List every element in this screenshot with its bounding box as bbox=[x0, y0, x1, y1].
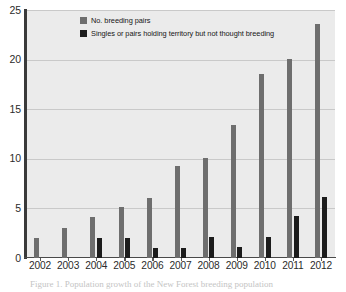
figure-container: 0510152025 20022003200420052006200720082… bbox=[0, 0, 346, 292]
bar-breeding-2011 bbox=[287, 59, 292, 258]
y-tick-label-15: 15 bbox=[0, 104, 21, 114]
x-tick-label-2004: 2004 bbox=[81, 260, 111, 272]
bar-breeding-2002 bbox=[34, 238, 39, 258]
y-axis-tick-labels: 0510152025 bbox=[0, 0, 21, 292]
bar-singles-2004 bbox=[97, 238, 102, 258]
legend-item-singles: Singles or pairs holding territory but n… bbox=[80, 28, 274, 39]
bar-breeding-2004 bbox=[90, 217, 95, 258]
y-tick-label-10: 10 bbox=[0, 153, 21, 163]
y-tick-label-5: 5 bbox=[0, 203, 21, 213]
x-tick-label-2002: 2002 bbox=[25, 260, 55, 272]
bar-breeding-2009 bbox=[231, 125, 236, 258]
bar-singles-2011 bbox=[294, 216, 299, 258]
bar-breeding-2005 bbox=[119, 207, 124, 258]
legend-item-breeding: No. breeding pairs bbox=[80, 15, 274, 26]
bar-breeding-2007 bbox=[175, 166, 180, 258]
bar-singles-2006 bbox=[153, 248, 158, 258]
bar-breeding-2006 bbox=[147, 198, 152, 259]
x-tick-label-2009: 2009 bbox=[222, 260, 252, 272]
x-tick-label-2006: 2006 bbox=[137, 260, 167, 272]
figure-caption: Figure 1. Population growth of the New F… bbox=[30, 279, 330, 290]
legend-label-singles: Singles or pairs holding territory but n… bbox=[91, 30, 274, 38]
bar-singles-2008 bbox=[209, 237, 214, 258]
legend-label-breeding: No. breeding pairs bbox=[91, 17, 151, 25]
bar-singles-2007 bbox=[181, 248, 186, 258]
bar-breeding-2008 bbox=[203, 158, 208, 258]
x-tick-label-2010: 2010 bbox=[250, 260, 280, 272]
legend-swatch-icon-breeding bbox=[80, 17, 87, 24]
x-tick-label-2007: 2007 bbox=[166, 260, 196, 272]
bar-singles-2009 bbox=[237, 247, 242, 258]
x-tick-label-2008: 2008 bbox=[194, 260, 224, 272]
x-tick-label-2011: 2011 bbox=[278, 260, 308, 272]
x-tick-label-2012: 2012 bbox=[306, 260, 336, 272]
bar-breeding-2003 bbox=[62, 228, 67, 258]
bar-breeding-2010 bbox=[259, 74, 264, 258]
x-tick-label-2005: 2005 bbox=[109, 260, 139, 272]
bar-singles-2012 bbox=[322, 197, 327, 259]
y-tick-label-0: 0 bbox=[0, 253, 21, 263]
legend-swatch-icon-singles bbox=[80, 30, 87, 37]
bar-breeding-2012 bbox=[315, 24, 320, 258]
bar-singles-2005 bbox=[125, 238, 130, 258]
bar-singles-2010 bbox=[266, 237, 271, 258]
bars-layer bbox=[26, 10, 335, 258]
chart-legend: No. breeding pairs Singles or pairs hold… bbox=[80, 15, 274, 41]
y-tick-label-25: 25 bbox=[0, 5, 21, 15]
x-tick-label-2003: 2003 bbox=[53, 260, 83, 272]
x-axis-tick-labels: 2002200320042005200620072008200920102011… bbox=[26, 260, 335, 276]
y-tick-label-20: 20 bbox=[0, 54, 21, 64]
